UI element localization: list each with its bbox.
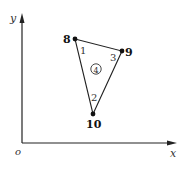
local-node-1-label: 1 [80,45,86,56]
y-axis-label: y [9,12,17,25]
local-node-2-label: 2 [91,92,97,103]
node-10-dot [91,112,96,117]
node-8-dot [73,37,78,42]
node-8-label: 8 [63,33,71,46]
element-number: 4 [93,66,98,75]
origin-label: o [15,146,21,157]
coordinate-axes: o x y [9,12,177,160]
local-node-3-label: 3 [110,52,116,63]
node-9-dot [120,49,125,54]
triangle-element-diagram: o x y 8 9 10 1 3 2 4 [0,0,188,175]
x-axis-label: x [170,147,177,160]
node-9-label: 9 [125,46,133,59]
x-axis-arrow-icon [167,141,177,146]
node-10-label: 10 [86,118,102,131]
triangle-element: 8 9 10 1 3 2 4 [63,33,133,131]
element-number-badge: 4 [91,64,101,75]
y-axis-arrow-icon [20,13,25,23]
